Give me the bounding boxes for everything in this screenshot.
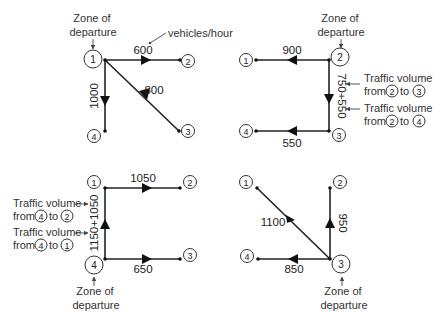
- volume-label-4-to-3: 650: [133, 263, 152, 275]
- node-label: 1: [91, 178, 96, 188]
- volume-label-1-to-2: 1050: [130, 172, 156, 184]
- volume-label-3-to-4: 550: [282, 137, 301, 149]
- volume-label-2-to-1: 900: [282, 44, 301, 56]
- svg-text:from: from: [364, 115, 386, 127]
- zone-of-departure-label-line1: Zone of: [324, 285, 362, 297]
- callout-from-4-to-1: from 4 to 1: [13, 239, 73, 251]
- panel-1: Zone of departure 1 2 3 4 600 800 1000 v…: [69, 12, 233, 143]
- direction-arrow-icon: [286, 215, 295, 223]
- svg-text:from: from: [13, 239, 35, 251]
- volume-label-1-to-4: 1000: [88, 83, 100, 109]
- volume-label-1-to-2: 600: [133, 44, 152, 56]
- svg-text:2: 2: [389, 87, 394, 97]
- node-label: 2: [337, 178, 342, 188]
- svg-text:from: from: [364, 85, 386, 97]
- panel-4: 1 2 3 4 1100 950 850 Zone of departure: [240, 176, 368, 312]
- svg-text:to: to: [49, 239, 58, 251]
- volume-label-1-to-3: 800: [144, 84, 163, 96]
- direction-arrow-icon: [324, 94, 334, 104]
- callout-traffic-volume-label: Traffic volume: [13, 197, 81, 209]
- volume-label-4-to-1: 1150+1050: [88, 194, 100, 251]
- zone-of-departure-label-line1: Zone of: [76, 285, 114, 297]
- svg-text:3: 3: [416, 87, 421, 97]
- callout-traffic-volume-label: Traffic volume: [364, 102, 432, 114]
- edge-1-to-3: [105, 60, 179, 131]
- node-label: 1: [243, 178, 248, 188]
- direction-arrow-icon: [100, 219, 110, 229]
- zone-of-departure-label-line2: departure: [72, 299, 119, 311]
- node-label: 1: [243, 56, 248, 66]
- node-label: 4: [91, 132, 96, 142]
- svg-text:1: 1: [64, 241, 69, 251]
- direction-arrow-icon: [325, 218, 335, 228]
- direction-arrow-icon: [141, 55, 151, 65]
- volume-label-3-to-4: 850: [284, 263, 303, 275]
- callout-from-2-to-4: from 2 to 4: [364, 115, 425, 127]
- zone-of-departure-label-line1: Zone of: [73, 12, 111, 24]
- svg-text:to: to: [400, 115, 409, 127]
- node-label: 4: [91, 260, 97, 271]
- svg-text:to: to: [400, 85, 409, 97]
- direction-arrow-icon: [287, 126, 297, 136]
- panel-2: Zone of departure 1 2 3 4 900 750+550 55…: [240, 12, 433, 149]
- svg-text:4: 4: [416, 117, 421, 127]
- direction-arrow-icon: [100, 96, 110, 106]
- panel-3: 1 2 3 4 1050 1150+1050 650 Traffic volum…: [13, 172, 197, 311]
- node-label: 2: [185, 57, 190, 67]
- volume-label-3-to-1: 1100: [261, 216, 286, 228]
- svg-text:4: 4: [38, 212, 43, 222]
- unit-label: vehicles/hour: [168, 27, 233, 39]
- volume-label-3-to-2: 950: [337, 213, 349, 232]
- node-label: 4: [244, 252, 249, 262]
- zone-of-departure-label-line2: departure: [320, 299, 367, 311]
- callout-from-4-to-2: from 4 to 2: [13, 210, 73, 222]
- callout-traffic-volume-label: Traffic volume: [364, 72, 432, 84]
- svg-text:to: to: [49, 210, 58, 222]
- zone-of-departure-label-line1: Zone of: [321, 12, 359, 24]
- direction-arrow-icon: [287, 55, 297, 65]
- volume-label-2-to-3: 750+550: [336, 73, 348, 118]
- callout-from-2-to-3: from 2 to 3: [364, 85, 425, 97]
- svg-text:4: 4: [38, 241, 43, 251]
- zone-of-departure-label-line2: departure: [69, 26, 116, 38]
- zone-of-departure-label-line2: departure: [317, 26, 364, 38]
- traffic-assignment-diagram: Zone of departure 1 2 3 4 600 800 1000 v…: [0, 0, 434, 315]
- node-label: 3: [187, 251, 192, 261]
- node-label: 3: [185, 127, 190, 137]
- node-label: 4: [243, 127, 248, 137]
- svg-text:2: 2: [64, 212, 69, 222]
- svg-text:from: from: [13, 210, 35, 222]
- svg-text:2: 2: [389, 117, 394, 127]
- node-label: 2: [337, 52, 343, 63]
- node-label: 2: [187, 178, 192, 188]
- unit-pointer-line: [150, 33, 166, 43]
- callout-traffic-volume-label: Traffic volume: [13, 226, 81, 238]
- node-label: 1: [90, 54, 96, 65]
- direction-arrow-icon: [142, 183, 152, 193]
- node-label: 3: [338, 259, 344, 270]
- node-label: 3: [336, 131, 341, 141]
